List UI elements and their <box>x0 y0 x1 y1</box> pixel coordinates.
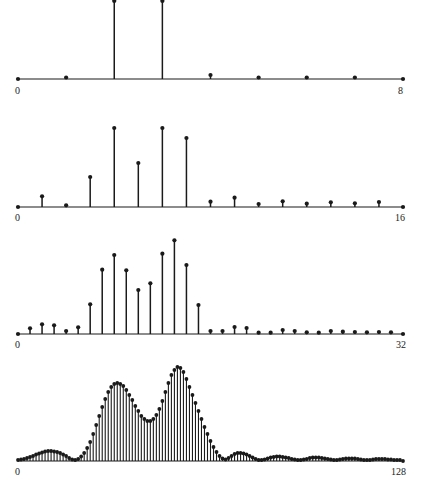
stem-dot <box>185 377 189 381</box>
stem-dot <box>136 409 140 413</box>
stem-dot <box>353 201 357 205</box>
stem-dot <box>220 329 224 333</box>
stem-panel-3 <box>16 238 405 336</box>
stem-dot <box>305 330 309 334</box>
panel-2-x-end-label: 16 <box>395 213 405 223</box>
panel-1-x-end-label: 8 <box>398 86 403 96</box>
stem-dot <box>208 200 212 204</box>
stem-dot <box>401 205 405 209</box>
stem-dot <box>64 329 68 333</box>
panel-2-x-start-label: 0 <box>15 213 20 223</box>
stem-dot <box>133 404 137 408</box>
stem-dot <box>232 325 236 329</box>
stem-dot <box>317 331 321 335</box>
stem-dot <box>121 384 125 388</box>
stem-dot <box>88 440 92 444</box>
stem-dot <box>136 161 140 165</box>
stem-dot <box>377 330 381 334</box>
stem-dot <box>91 432 95 436</box>
stem-dot <box>16 77 20 81</box>
stem-dot <box>191 393 195 397</box>
stem-dot <box>151 417 155 421</box>
stem-dot <box>112 0 116 3</box>
stem-dot <box>97 414 101 418</box>
stem-dot <box>179 366 183 370</box>
panel-3-x-end-label: 32 <box>396 340 406 350</box>
stem-dot <box>124 268 128 272</box>
stem-dot <box>212 445 216 449</box>
stem-dot <box>160 126 164 130</box>
stem-dot <box>269 331 273 335</box>
stem-dot <box>112 253 116 257</box>
stem-dot <box>194 401 198 405</box>
panel-4-x-start-label: 0 <box>15 467 20 477</box>
stem-dot <box>100 268 104 272</box>
panel-3-x-start-label: 0 <box>15 340 20 350</box>
stem-dot <box>106 390 110 394</box>
stem-dot <box>109 385 113 389</box>
stem-dot <box>196 303 200 307</box>
stem-dot <box>160 252 164 256</box>
stem-dot <box>127 393 131 397</box>
stem-dot <box>130 398 134 402</box>
stem-dot <box>82 451 86 455</box>
stem-dot <box>88 175 92 179</box>
stem-dot <box>257 331 261 335</box>
stem-dot <box>160 399 164 403</box>
stem-dot <box>16 205 20 209</box>
stem-dot <box>401 332 405 336</box>
stem-dot <box>281 328 285 332</box>
stem-panel-4 <box>16 365 405 463</box>
stem-dot <box>329 200 333 204</box>
stem-dot <box>206 432 210 436</box>
stem-dot <box>40 194 44 198</box>
stem-dot <box>157 407 161 411</box>
stem-dot <box>401 77 405 81</box>
stem-dot <box>257 202 261 206</box>
stem-dot <box>341 330 345 334</box>
stem-dot <box>124 388 128 392</box>
stem-dot <box>100 405 104 409</box>
stem-dot <box>136 288 140 292</box>
stem-dot <box>257 75 261 79</box>
stem-dot <box>76 457 80 461</box>
stem-dot <box>172 238 176 242</box>
stem-dot <box>377 200 381 204</box>
stem-plots-canvas <box>0 0 425 484</box>
stem-dot <box>173 368 177 372</box>
stem-dot <box>208 73 212 77</box>
stem-dot <box>218 454 222 458</box>
stem-dot <box>28 326 32 330</box>
stem-dot <box>305 75 309 79</box>
stem-dot <box>64 203 68 207</box>
stem-dot <box>154 413 158 417</box>
stem-dot <box>160 0 164 3</box>
stem-dot <box>232 196 236 200</box>
stem-dot <box>329 329 333 333</box>
stem-dot <box>389 330 393 334</box>
stem-dot <box>215 450 219 454</box>
stem-dot <box>401 459 405 463</box>
stem-dot <box>182 370 186 374</box>
stem-dot <box>103 397 107 401</box>
stem-dot <box>184 136 188 140</box>
stem-dot <box>293 329 297 333</box>
stem-dot <box>353 75 357 79</box>
stem-dot <box>244 326 248 330</box>
stem-dot <box>169 373 173 377</box>
stem-dot <box>148 281 152 285</box>
stem-dot <box>76 325 80 329</box>
stem-dot <box>353 330 357 334</box>
stem-dot <box>188 385 192 389</box>
stem-dot <box>203 425 207 429</box>
stem-dot <box>281 199 285 203</box>
stem-dot <box>197 409 201 413</box>
stem-dot <box>112 126 116 130</box>
stem-dot <box>88 302 92 306</box>
stem-dot <box>208 329 212 333</box>
stem-dot <box>40 322 44 326</box>
stem-dot <box>209 439 213 443</box>
stem-dot <box>166 381 170 385</box>
stem-dot <box>52 323 56 327</box>
stem-panel-1 <box>16 0 405 81</box>
